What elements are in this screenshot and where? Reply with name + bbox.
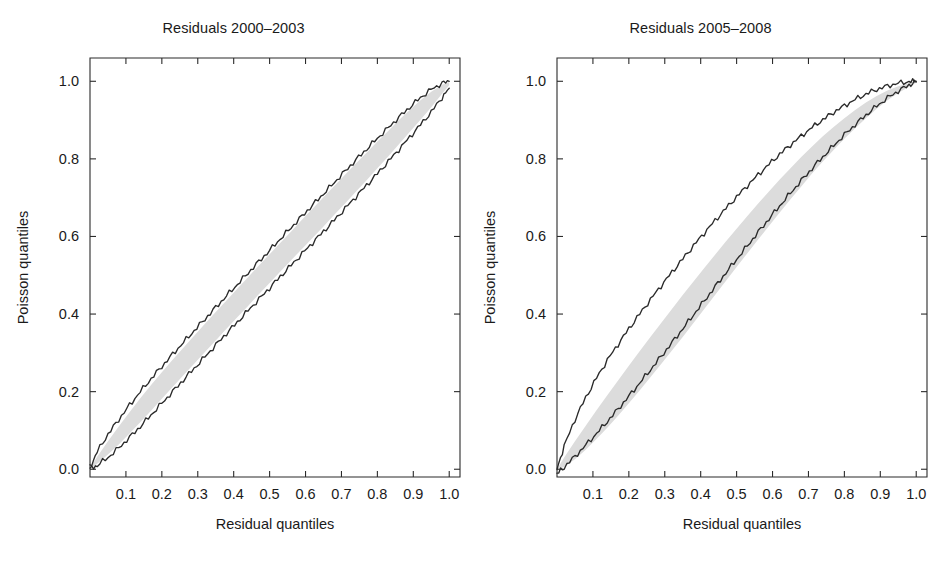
x-tick-label-0.1: 0.1 bbox=[583, 486, 603, 502]
x-axis-title: Residual quantiles bbox=[216, 516, 335, 532]
confidence-band bbox=[90, 82, 449, 469]
x-tick-label-0.6: 0.6 bbox=[762, 486, 782, 502]
y-tick-label-1.0: 1.0 bbox=[59, 73, 79, 89]
y-axis-title: Poisson quantiles bbox=[15, 211, 31, 325]
y-tick-label-0.8: 0.8 bbox=[59, 151, 79, 167]
y-tick-label-0.8: 0.8 bbox=[526, 151, 546, 167]
plot-content-right: 0.10.20.30.40.50.60.70.80.91.00.00.20.40… bbox=[482, 58, 927, 532]
y-tick-label-0.0: 0.0 bbox=[526, 461, 546, 477]
x-tick-label-0.4: 0.4 bbox=[224, 486, 244, 502]
x-tick-label-0.9: 0.9 bbox=[870, 486, 890, 502]
x-tick-label-0.3: 0.3 bbox=[655, 486, 675, 502]
y-tick-label-0.2: 0.2 bbox=[526, 384, 546, 400]
chart-panel-right: Residuals 2005–2008 0.10.20.30.40.50.60.… bbox=[467, 0, 934, 561]
y-tick-label-1.0: 1.0 bbox=[526, 73, 546, 89]
x-tick-label-0.1: 0.1 bbox=[116, 486, 136, 502]
x-tick-label-0.5: 0.5 bbox=[260, 486, 280, 502]
x-axis-title: Residual quantiles bbox=[683, 516, 802, 532]
chart-panel-left: Residuals 2000–2003 0.10.20.30.40.50.60.… bbox=[0, 0, 467, 561]
plot-content-left: 0.10.20.30.40.50.60.70.80.91.00.00.20.40… bbox=[15, 58, 460, 532]
x-tick-label-0.2: 0.2 bbox=[152, 486, 172, 502]
y-axis-title: Poisson quantiles bbox=[482, 211, 498, 325]
y-tick-label-0.6: 0.6 bbox=[59, 228, 79, 244]
y-tick-label-0.4: 0.4 bbox=[59, 306, 79, 322]
x-tick-label-0.7: 0.7 bbox=[798, 486, 818, 502]
x-tick-label-0.3: 0.3 bbox=[188, 486, 208, 502]
x-tick-label-0.8: 0.8 bbox=[367, 486, 387, 502]
x-tick-label-0.7: 0.7 bbox=[331, 486, 351, 502]
x-tick-label-0.6: 0.6 bbox=[295, 486, 315, 502]
plot-area-left: 0.10.20.30.40.50.60.70.80.91.00.00.20.40… bbox=[0, 0, 467, 561]
confidence-band bbox=[557, 81, 916, 469]
y-tick-label-0.4: 0.4 bbox=[526, 306, 546, 322]
x-tick-label-0.2: 0.2 bbox=[619, 486, 639, 502]
figure-canvas: Residuals 2000–2003 0.10.20.30.40.50.60.… bbox=[0, 0, 934, 561]
y-tick-label-0.6: 0.6 bbox=[526, 228, 546, 244]
y-tick-label-0.2: 0.2 bbox=[59, 384, 79, 400]
x-tick-label-0.8: 0.8 bbox=[834, 486, 854, 502]
x-tick-label-0.9: 0.9 bbox=[403, 486, 423, 502]
x-tick-label-1.0: 1.0 bbox=[906, 486, 926, 502]
plot-area-right: 0.10.20.30.40.50.60.70.80.91.00.00.20.40… bbox=[467, 0, 934, 561]
x-tick-label-0.5: 0.5 bbox=[727, 486, 747, 502]
x-tick-label-1.0: 1.0 bbox=[439, 486, 459, 502]
y-tick-label-0.0: 0.0 bbox=[59, 461, 79, 477]
x-tick-label-0.4: 0.4 bbox=[691, 486, 711, 502]
